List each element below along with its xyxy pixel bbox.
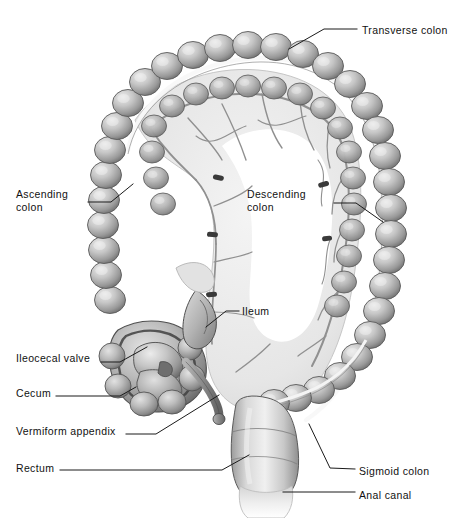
label-ileocecal-valve: Ileocecal valve bbox=[16, 352, 90, 365]
ascending-colon-segment bbox=[88, 113, 133, 314]
label-cecum: Cecum bbox=[16, 387, 51, 400]
label-vermiform-appendix: Vermiform appendix bbox=[16, 425, 116, 438]
label-anal-canal: Anal canal bbox=[359, 489, 412, 502]
label-ascending-colon: Ascending colon bbox=[16, 188, 68, 213]
leader-sigmoid-colon bbox=[309, 424, 355, 469]
label-descending-colon: Descending colon bbox=[247, 188, 306, 213]
label-sigmoid-colon: Sigmoid colon bbox=[359, 465, 430, 478]
anatomy-figure: Transverse colonAscending colonDescendin… bbox=[0, 0, 463, 518]
large-intestine-illustration bbox=[0, 0, 463, 518]
label-transverse-colon: Transverse colon bbox=[362, 24, 448, 37]
label-rectum: Rectum bbox=[16, 462, 54, 475]
leader-rectum bbox=[60, 455, 249, 470]
label-ileum: Ileum bbox=[242, 305, 269, 318]
